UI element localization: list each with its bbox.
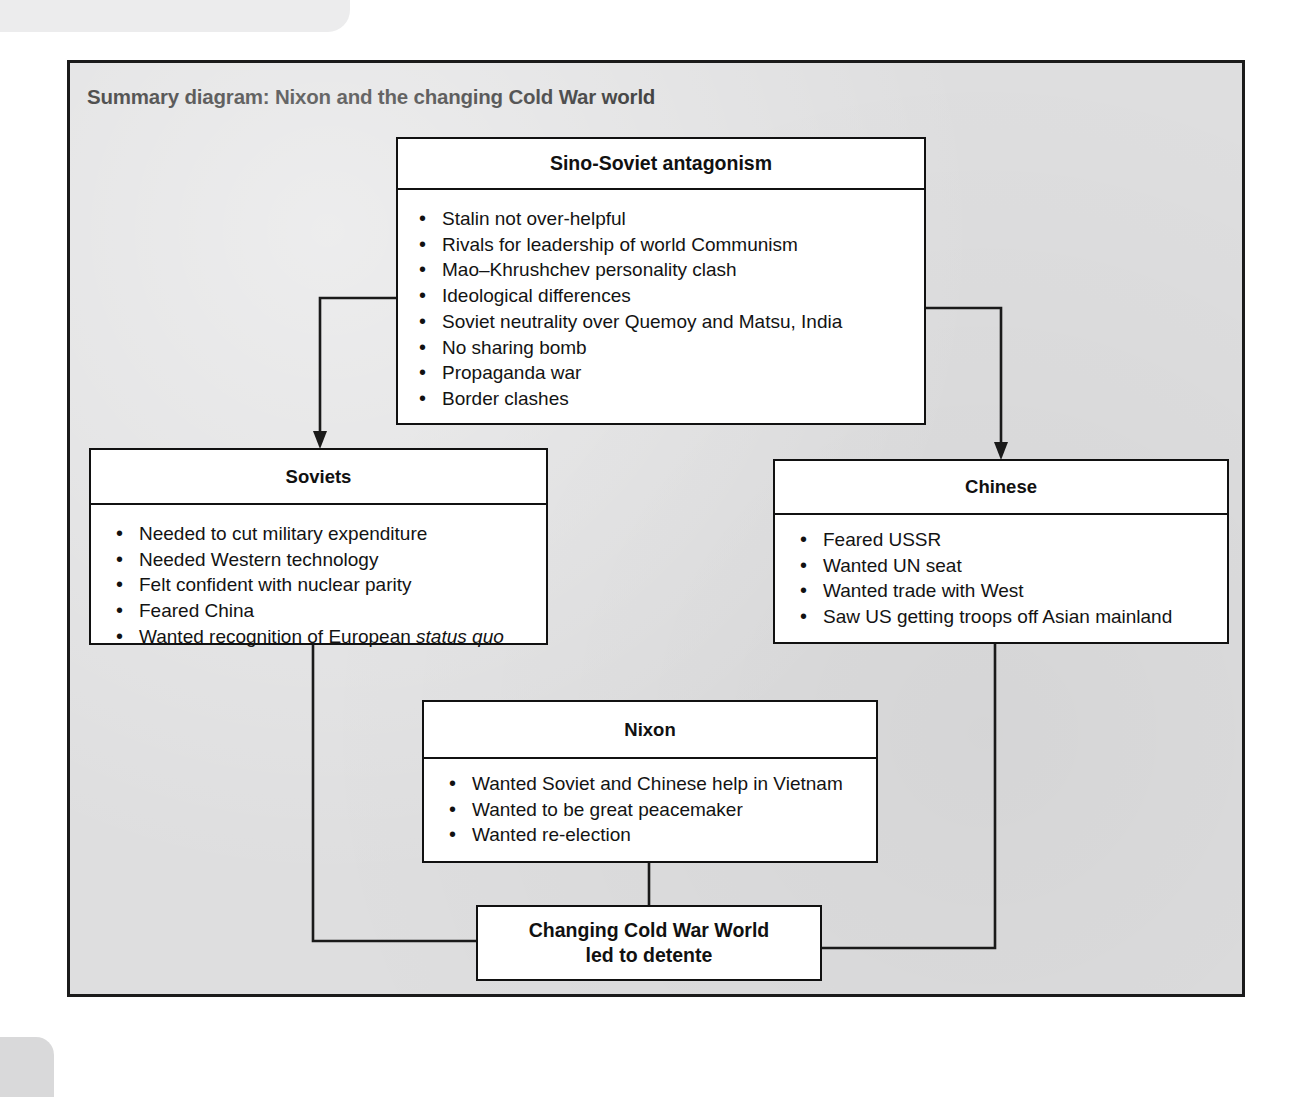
page-header-remnant: 1111 1 [0,0,350,32]
list-item: No sharing bomb [412,335,910,361]
bullet-list-soviets: Needed to cut military expenditure Neede… [109,521,532,650]
box-body-sino-soviet-antagonism: Stalin not over-helpful Rivals for leade… [398,190,924,422]
list-item: Ideological differences [412,283,910,309]
list-item: Wanted re-election [442,822,862,848]
list-item: Wanted UN seat [793,553,1213,579]
list-item: Mao–Khrushchev personality clash [412,257,910,283]
arrowhead-soviets [313,431,327,449]
list-item: Soviet neutrality over Quemoy and Matsu,… [412,309,910,335]
box-nixon: Nixon Wanted Soviet and Chinese help in … [422,700,878,863]
box-title-sino-soviet-antagonism: Sino-Soviet antagonism [398,139,924,190]
list-item-with-italic: Wanted recognition of European status qu… [109,624,532,650]
connector-sino-to-chinese [926,308,1001,448]
list-item: Feared USSR [793,527,1213,553]
box-title-nixon: Nixon [424,702,876,759]
list-item: Propaganda war [412,360,910,386]
box-title-soviets: Soviets [91,450,546,505]
list-item: Feared China [109,598,532,624]
summary-diagram-panel: Summary diagram: Nixon and the changing … [67,60,1245,997]
box-outcome-text: Changing Cold War World led to detente [529,918,769,968]
outcome-line-1: Changing Cold War World [529,918,769,943]
list-item: Needed to cut military expenditure [109,521,532,547]
list-item-text-lead: Wanted recognition of European [139,626,416,647]
box-sino-soviet-antagonism: Sino-Soviet antagonism Stalin not over-h… [396,137,926,425]
list-item: Saw US getting troops off Asian mainland [793,604,1213,630]
outcome-line-2: led to detente [529,943,769,968]
list-item: Rivals for leadership of world Communism [412,232,910,258]
list-item: Wanted to be great peacemaker [442,797,862,823]
box-body-soviets: Needed to cut military expenditure Neede… [91,505,546,660]
list-item: Needed Western technology [109,547,532,573]
list-item-text-italic: status quo [416,626,504,647]
connector-sino-to-soviets [320,298,396,437]
box-chinese: Chinese Feared USSR Wanted UN seat Wante… [773,459,1229,644]
box-body-nixon: Wanted Soviet and Chinese help in Vietna… [424,759,876,858]
list-item: Border clashes [412,386,910,412]
page-footer-remnant [0,1037,54,1097]
bullet-list-sino-soviet: Stalin not over-helpful Rivals for leade… [412,206,910,412]
list-item: Wanted Soviet and Chinese help in Vietna… [442,771,862,797]
list-item: Wanted trade with West [793,578,1213,604]
box-body-chinese: Feared USSR Wanted UN seat Wanted trade … [775,515,1227,640]
box-soviets: Soviets Needed to cut military expenditu… [89,448,548,645]
arrowhead-chinese [994,442,1008,460]
box-title-chinese: Chinese [775,461,1227,515]
list-item: Stalin not over-helpful [412,206,910,232]
bullet-list-nixon: Wanted Soviet and Chinese help in Vietna… [442,771,862,848]
bullet-list-chinese: Feared USSR Wanted UN seat Wanted trade … [793,527,1213,630]
list-item: Felt confident with nuclear parity [109,572,532,598]
box-outcome: Changing Cold War World led to detente [476,905,822,981]
